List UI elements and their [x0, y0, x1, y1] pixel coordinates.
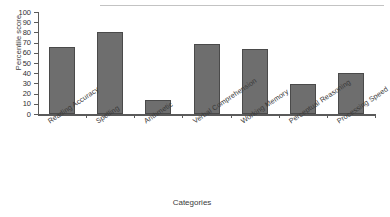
y-tick: 40	[34, 73, 39, 74]
y-tick-label: 40	[23, 69, 31, 78]
y-tick: 90	[34, 22, 39, 23]
y-tick-label: 60	[23, 48, 31, 57]
y-tick-label: 20	[23, 89, 31, 98]
y-tick-label: 90	[23, 18, 31, 27]
y-tick-label: 70	[23, 38, 31, 47]
y-tick: 50	[34, 63, 39, 64]
y-tick: 60	[34, 53, 39, 54]
y-tick: 0	[34, 114, 39, 115]
y-tick: 10	[34, 104, 39, 105]
bar	[97, 32, 123, 114]
y-tick-label: 50	[23, 59, 31, 68]
y-tick-label: 10	[23, 99, 31, 108]
y-tick: 70	[34, 43, 39, 44]
y-tick: 100	[34, 12, 39, 13]
y-tick: 80	[34, 32, 39, 33]
y-tick: 30	[34, 83, 39, 84]
y-tick-label: 30	[23, 79, 31, 88]
scan-artifact-line	[100, 5, 384, 6]
x-tick	[279, 114, 280, 118]
x-tick	[375, 114, 376, 118]
y-tick: 20	[34, 94, 39, 95]
x-tick	[231, 114, 232, 118]
y-tick-label: 80	[23, 28, 31, 37]
y-tick-label: 0	[27, 110, 31, 119]
x-axis-title: Categories	[0, 198, 384, 207]
y-tick-label: 100	[18, 8, 31, 17]
x-tick	[327, 114, 328, 118]
x-tick	[182, 114, 183, 118]
x-tick	[134, 114, 135, 118]
y-axis-line	[38, 12, 39, 114]
x-tick	[86, 114, 87, 118]
